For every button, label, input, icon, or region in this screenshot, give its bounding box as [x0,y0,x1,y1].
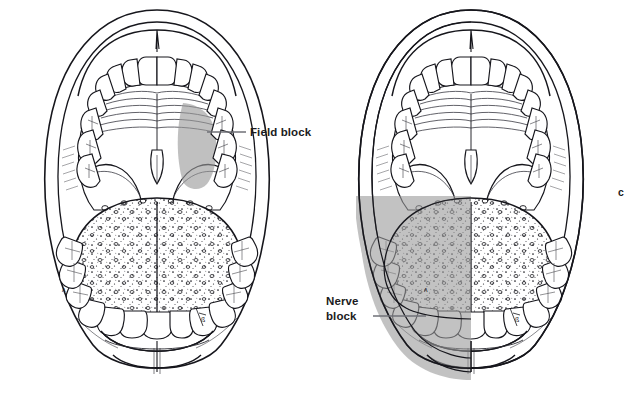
mouth-illustrations: ß ᴧ [0,0,628,400]
left-mouth-figure: ß ᴧ [45,10,269,374]
svg-text:ß: ß [201,316,205,323]
svg-text:ß: ß [515,316,519,323]
nerve-block-label-line2: block [326,309,357,324]
right-mouth-figure: ß ᴧ [356,10,583,400]
field-block-label: Field block [250,125,311,140]
svg-text:ᴧ: ᴧ [62,286,66,293]
nerve-block-label-line1: Nerve [326,294,358,309]
figure-letter-label: c [618,186,624,198]
svg-text:ᴧ: ᴧ [424,286,428,293]
illustration-canvas: ß ᴧ [0,0,628,400]
